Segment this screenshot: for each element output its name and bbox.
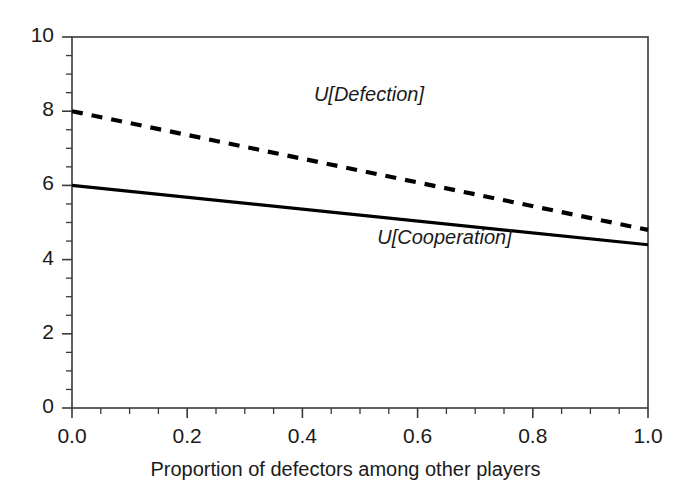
x-axis-title: Proportion of defectors among other play… [0,458,691,481]
y-axis-tick-label: 4 [0,246,54,270]
y-axis-tick-label: 10 [0,23,54,47]
series-annotation-u-defection: U[Defection] [314,83,424,106]
y-axis-tick-label: 2 [0,320,54,344]
series-annotation-u-cooperation: U[Cooperation] [377,226,512,249]
x-axis-tick-label: 0.0 [32,424,112,448]
x-axis-minor-ticks [101,408,619,414]
y-axis-tick-label: 6 [0,171,54,195]
x-axis-tick-label: 0.6 [378,424,458,448]
data-series-group [72,111,648,245]
y-axis-tick-label: 8 [0,97,54,121]
x-axis-tick-label: 0.8 [493,424,573,448]
x-axis-tick-label: 0.2 [147,424,227,448]
series-line-u-cooperation [72,185,648,244]
chart-figure: 0246810 0.00.20.40.60.81.0 U[Defection]U… [0,0,691,504]
x-axis-tick-label: 1.0 [608,424,688,448]
y-axis-minor-ticks [66,56,72,390]
y-axis-tick-label: 0 [0,394,54,418]
x-axis-tick-label: 0.4 [262,424,342,448]
series-line-u-defection [72,111,648,230]
